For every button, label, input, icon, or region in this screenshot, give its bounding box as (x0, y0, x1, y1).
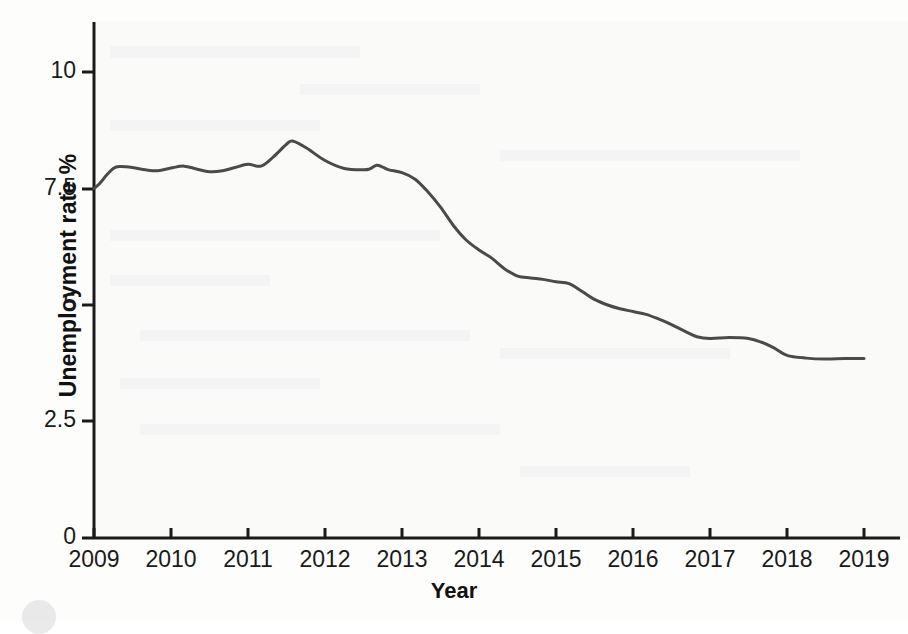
y-axis-ticks (82, 72, 94, 538)
unemployment-rate-line (94, 141, 864, 359)
page-corner-artifact (22, 600, 56, 634)
